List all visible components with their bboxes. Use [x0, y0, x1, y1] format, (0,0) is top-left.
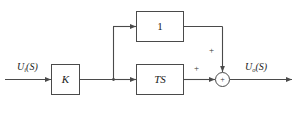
block-gain-label: K — [62, 74, 69, 85]
input-signal-subscript: i — [24, 66, 26, 73]
summing-junction-glyph: + — [220, 75, 225, 83]
block-gain[interactable]: K — [51, 64, 80, 95]
block-derivative-label: TS — [154, 74, 166, 85]
summing-junction[interactable]: + — [215, 72, 230, 87]
input-signal-label: Ui(S) — [17, 62, 38, 72]
block-feedforward[interactable]: 1 — [136, 11, 184, 42]
block-feedforward-label: 1 — [157, 21, 163, 32]
block-derivative[interactable]: TS — [136, 64, 184, 95]
sum-horizontal-input-sign: + — [194, 64, 199, 73]
input-signal-argument: (S) — [26, 61, 38, 72]
block-diagram: Ui(S) K 1 TS + + + Uo(S) — [0, 0, 298, 118]
output-signal-label: Uo(S) — [245, 62, 267, 72]
output-signal-argument: (S) — [255, 61, 267, 72]
branch-junction-dot — [112, 78, 115, 81]
output-signal-subscript: o — [252, 66, 255, 73]
sum-vertical-input-sign: + — [209, 46, 214, 55]
